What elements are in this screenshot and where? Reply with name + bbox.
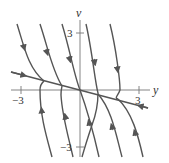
vertical-axis-label: v <box>76 6 82 20</box>
tick-label-v-pos: 3 <box>67 27 73 39</box>
horizontal-axis-label: y <box>152 83 159 97</box>
axes <box>11 20 150 157</box>
tick-label-v-neg: −3 <box>60 141 72 153</box>
tick-label-h-pos: 3 <box>135 94 141 106</box>
phase-plane-diagram: v y 3 −3 −3 3 <box>0 0 169 163</box>
tick-label-h-neg: −3 <box>12 94 24 106</box>
trajectories-bottom <box>40 81 143 157</box>
phase-plane-svg: v y 3 −3 −3 3 <box>0 0 169 163</box>
